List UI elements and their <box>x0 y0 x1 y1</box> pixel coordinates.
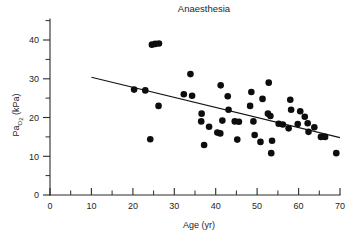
data-point <box>236 118 243 125</box>
data-point <box>142 87 149 94</box>
data-point <box>288 106 295 113</box>
data-point <box>217 130 224 137</box>
data-point <box>267 113 274 120</box>
y-axis-title-main: Pa <box>11 126 21 137</box>
data-point <box>259 96 266 103</box>
regression-line-path <box>91 77 340 137</box>
data-point <box>250 118 257 125</box>
x-tick-label-0: 0 <box>47 201 52 211</box>
data-point <box>224 93 231 100</box>
data-point <box>287 96 294 103</box>
y-tick-label-0: 0 <box>34 190 39 200</box>
y-tick-label-10: 10 <box>29 152 39 162</box>
data-point <box>155 103 162 110</box>
x-axis-title: Age (yr) <box>183 220 215 230</box>
data-point <box>311 124 318 131</box>
data-point <box>251 132 258 139</box>
data-point <box>198 110 205 117</box>
data-point <box>156 40 163 47</box>
svg-text:PaO2 (kPa): PaO2 (kPa) <box>11 93 24 136</box>
data-point <box>206 124 213 131</box>
y-tick-label-40: 40 <box>29 35 39 45</box>
x-tick-label-10: 10 <box>86 201 96 211</box>
data-point <box>269 137 276 144</box>
data-point <box>131 86 138 93</box>
data-point <box>189 93 196 100</box>
data-point <box>285 125 292 132</box>
data-point <box>301 113 308 120</box>
data-point <box>294 121 301 128</box>
data-point <box>268 150 275 157</box>
y-tick-label-20: 20 <box>29 113 39 123</box>
scatter-chart-figure: Anaesthesia 0 10 20 30 40 PaO2 (kPa) <box>0 0 355 243</box>
data-point <box>333 150 340 157</box>
data-point <box>225 106 232 113</box>
x-tick-label-50: 50 <box>252 201 262 211</box>
data-point <box>297 108 304 115</box>
chart-title: Anaesthesia <box>178 3 231 14</box>
data-point <box>198 118 205 125</box>
data-point <box>234 136 241 143</box>
regression-line <box>91 77 340 137</box>
data-point <box>217 82 224 89</box>
data-point <box>248 89 255 96</box>
data-point <box>322 134 329 141</box>
y-axis-title: PaO2 (kPa) <box>11 93 24 136</box>
y-axis: 0 10 20 30 40 PaO2 (kPa) <box>11 19 50 200</box>
x-tick-label-20: 20 <box>128 201 138 211</box>
y-tick-label-30: 30 <box>29 74 39 84</box>
data-point <box>247 103 254 110</box>
data-point <box>187 71 194 78</box>
x-axis: 0 10 20 30 40 50 60 70 Age (yr) <box>47 188 345 230</box>
data-point <box>280 121 287 128</box>
data-point <box>265 79 272 86</box>
data-point <box>304 120 311 127</box>
data-point <box>257 139 264 146</box>
x-tick-label-30: 30 <box>169 201 179 211</box>
data-point-group <box>131 40 340 156</box>
x-tick-label-60: 60 <box>294 201 304 211</box>
x-tick-label-40: 40 <box>211 201 221 211</box>
data-point <box>201 142 208 149</box>
data-point <box>181 91 188 98</box>
data-point <box>219 117 226 124</box>
y-axis-title-unit: (kPa) <box>11 93 21 117</box>
plot-canvas: Anaesthesia 0 10 20 30 40 PaO2 (kPa) <box>0 0 355 243</box>
x-tick-label-70: 70 <box>335 201 345 211</box>
data-point <box>147 136 154 143</box>
data-point <box>305 129 312 136</box>
